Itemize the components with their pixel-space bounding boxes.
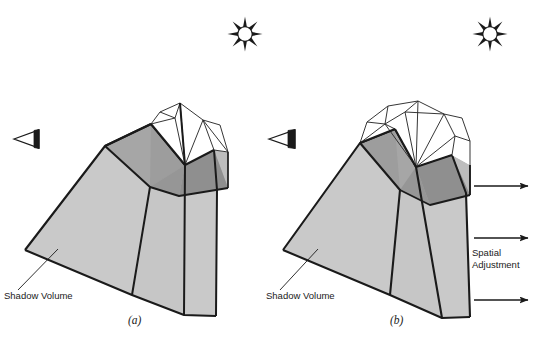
spatial-adjustment-label-line2: Adjustment xyxy=(472,259,520,270)
panel-caption-b: (b) xyxy=(390,314,404,327)
shadow-volume-label-b: Shadow Volume xyxy=(266,290,335,301)
sun-icon xyxy=(228,17,263,52)
sun-icon xyxy=(473,17,508,52)
panel-caption-a: (a) xyxy=(128,314,142,327)
figure-root: Shadow Volume (a) xyxy=(0,0,539,338)
spatial-adjustment-label-line1: Spatial xyxy=(472,247,501,258)
shadow-volume-label-a: Shadow Volume xyxy=(4,290,73,301)
diagram-canvas: Shadow Volume (a) xyxy=(0,0,539,338)
